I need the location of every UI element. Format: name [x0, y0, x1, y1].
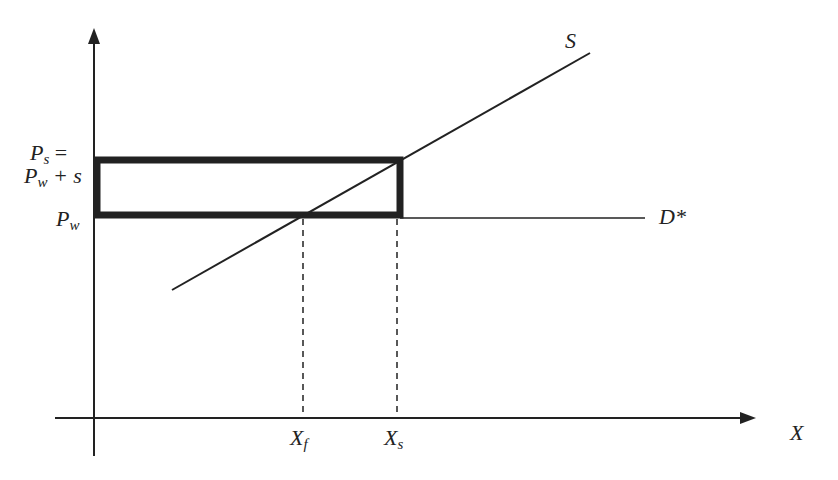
x-axis-arrow-icon [740, 412, 756, 424]
pw-plus-s-label: Pw + s [24, 165, 82, 190]
supply-line [172, 53, 590, 290]
demand-label: D* [659, 206, 686, 228]
pw-label: Pw [56, 208, 79, 233]
xf-label: Xf [290, 427, 308, 452]
xs-label: Xs [384, 427, 403, 452]
y-axis-arrow-icon [88, 28, 100, 44]
x-axis-label: X [790, 422, 803, 444]
supply-label: S [565, 30, 576, 52]
diagram-canvas [0, 0, 838, 480]
